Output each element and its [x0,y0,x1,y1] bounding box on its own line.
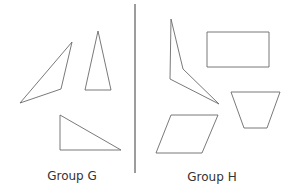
shape-diagram [0,0,292,192]
trapezoid-shape [231,92,280,128]
group-h-shapes [156,19,280,153]
isosceles-triangle-shape [85,31,111,90]
parallelogram-shape [156,115,218,153]
rectangle-shape [207,32,269,67]
group-g-shapes [20,31,121,150]
group-h-label: Group H [187,170,236,184]
group-g-label: Group G [47,169,97,183]
right-triangle-shape [60,115,121,150]
obtuse-triangle-shape [20,42,72,103]
